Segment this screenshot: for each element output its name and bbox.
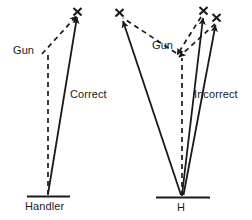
gun-sight-line-right-a xyxy=(177,17,201,55)
label-incorrect: Incorrect xyxy=(194,88,238,100)
x-target-mark-left xyxy=(74,8,82,16)
x-target-mark-right-b xyxy=(213,14,221,22)
x-target-mark-right-a xyxy=(200,7,208,15)
correct-aim-line xyxy=(48,17,77,194)
label-handler: Handler xyxy=(25,200,64,212)
diagram-svg xyxy=(0,0,252,220)
right-panel-group xyxy=(116,7,221,198)
diagram-canvas: Gun Gun Correct Incorrect Handler H xyxy=(0,0,252,220)
label-h: H xyxy=(177,201,185,213)
label-gun-left: Gun xyxy=(13,44,34,56)
left-panel-group xyxy=(27,8,82,197)
x-target-mark-right-left xyxy=(116,9,124,17)
label-correct: Correct xyxy=(70,88,107,100)
label-gun-right: Gun xyxy=(152,39,173,51)
